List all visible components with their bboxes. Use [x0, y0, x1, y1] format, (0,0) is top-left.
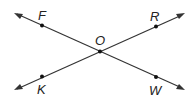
- label-w: W: [149, 83, 163, 98]
- arrowhead-icon: [14, 84, 23, 90]
- label-f: F: [38, 8, 47, 23]
- label-r: R: [150, 9, 159, 24]
- point-k: [40, 75, 44, 79]
- label-o: O: [95, 33, 105, 48]
- point-f: [40, 24, 44, 28]
- intersecting-lines-diagram: F R O K W: [0, 0, 196, 107]
- label-k: K: [37, 82, 47, 97]
- point-r: [154, 25, 158, 29]
- arrowhead-icon: [176, 13, 185, 19]
- arrowhead-icon: [14, 13, 23, 19]
- point-o: [98, 50, 102, 54]
- arrowhead-icon: [176, 84, 185, 90]
- point-w: [154, 75, 158, 79]
